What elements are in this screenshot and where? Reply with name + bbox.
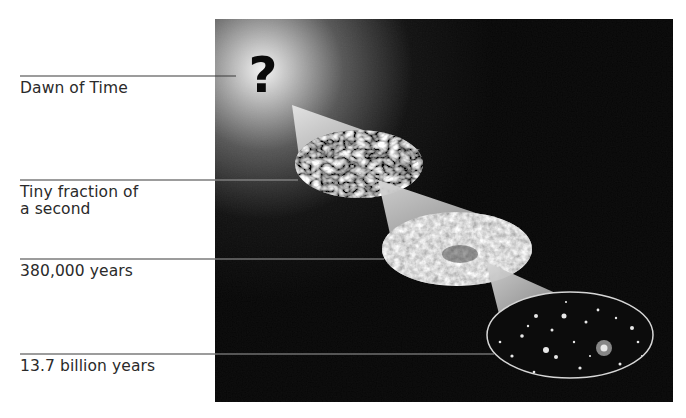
galaxy-field-ellipse [487, 292, 653, 378]
label-tiny-fraction: Tiny fraction of a second [20, 184, 138, 218]
label-13-7-billion-years: 13.7 billion years [20, 358, 155, 375]
label-380000-years: 380,000 years [20, 263, 133, 280]
turbulent-field-ellipse [295, 130, 423, 198]
label-dawn-of-time: Dawn of Time [20, 80, 128, 97]
question-mark-icon: ? [248, 46, 277, 104]
